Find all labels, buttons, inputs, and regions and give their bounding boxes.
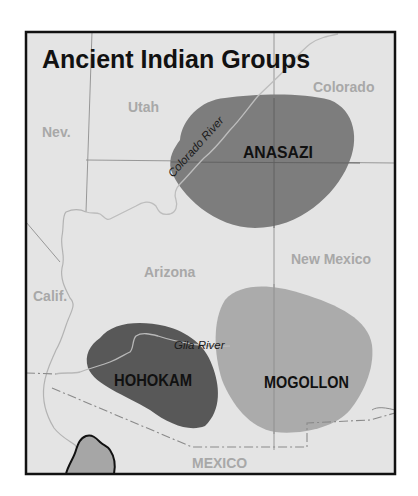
state-label-utah: Utah	[128, 99, 159, 115]
group-label-hohokam: HOHOKAM	[114, 371, 192, 390]
map-title: Ancient Indian Groups	[42, 45, 310, 73]
state-label-california: Calif.	[33, 288, 67, 304]
state-label-nevada: Nev.	[42, 124, 71, 140]
group-label-anasazi: ANASAZI	[243, 143, 313, 162]
state-label-colorado: Colorado	[313, 79, 374, 95]
country-label-mexico: MEXICO	[192, 455, 247, 471]
state-label-arizona: Arizona	[144, 264, 196, 280]
ancient-indian-groups-map: Ancient Indian Groups Nev. Utah Colorado…	[0, 0, 418, 496]
river-label-gila: Gila River	[174, 339, 226, 351]
state-label-new-mexico: New Mexico	[291, 251, 371, 267]
group-label-mogollon: MOGOLLON	[264, 373, 349, 392]
